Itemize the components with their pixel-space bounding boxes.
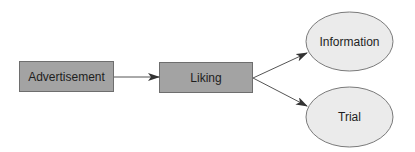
arrow-liking-to-trial <box>253 78 307 106</box>
arrow-liking-to-information <box>253 53 307 78</box>
advertisement-label: Advertisement <box>19 61 114 92</box>
information-label: Information <box>306 12 393 71</box>
liking-label: Liking <box>159 62 253 93</box>
diagram-canvas: Advertisement Liking Information Trial <box>0 0 415 152</box>
trial-label: Trial <box>306 87 393 147</box>
